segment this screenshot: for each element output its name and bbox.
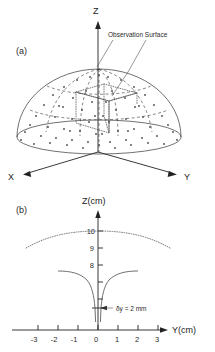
x-tick-label-5: 2 <box>135 335 139 344</box>
panel-b-label: (b) <box>16 205 27 215</box>
panel-a-y-axis: Y <box>98 152 190 182</box>
observation-surface-label: Observation Surface <box>108 31 168 38</box>
delta-y-annotation: δy = 2 mm <box>100 305 147 313</box>
panel-b: (b) Z(cm) Y(cm) -3 -2 -1 0 1 2 <box>12 196 196 344</box>
x-tick-label-0: -3 <box>31 335 38 344</box>
panel-a: (a) Z X Y <box>8 6 190 182</box>
panel-b-y-axis-label: Y(cm) <box>172 325 196 335</box>
x-tick-label-2: -1 <box>71 335 78 344</box>
panel-a-x-axis: X <box>8 152 98 182</box>
x-tick-label-4: 1 <box>115 335 119 344</box>
panel-a-x-axis-label: X <box>8 172 14 182</box>
x-tick-label-6: 3 <box>155 335 159 344</box>
panel-b-z-axis-label: Z(cm) <box>82 196 106 206</box>
figure-canvas: (a) Z X Y <box>0 0 215 352</box>
x-tick-label-1: -2 <box>51 335 58 344</box>
panel-b-x-ticks: -3 -2 -1 0 1 2 3 <box>31 325 159 344</box>
y-tick-label-9: 9 <box>90 244 94 253</box>
y-tick-label-8: 8 <box>90 261 94 270</box>
observation-surface-box <box>76 84 137 133</box>
panel-a-y-axis-label: Y <box>184 172 190 182</box>
panel-b-y-axis: Y(cm) <box>12 325 196 335</box>
panel-a-z-axis-label: Z <box>93 6 99 16</box>
delta-y-label: δy = 2 mm <box>116 305 147 313</box>
panel-a-label: (a) <box>16 46 27 56</box>
panel-b-y-ticks: 8 9 10 <box>87 227 104 308</box>
observation-surface-annotation: Observation Surface <box>97 31 168 96</box>
x-tick-label-3: 0 <box>94 335 98 344</box>
